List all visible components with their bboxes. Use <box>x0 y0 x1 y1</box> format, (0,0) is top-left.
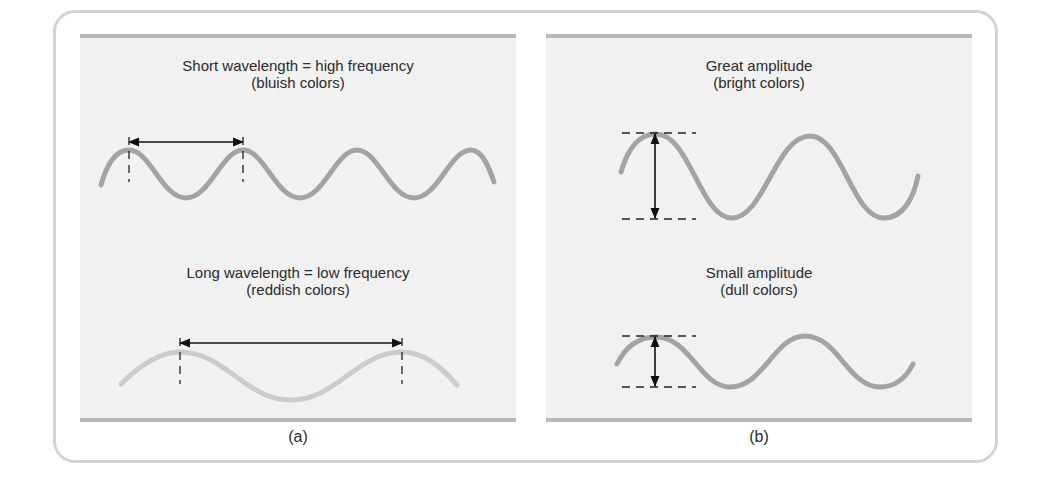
long-wavelength-wave <box>121 352 457 400</box>
great-amplitude-wave <box>621 134 918 218</box>
short-wavelength-wave <box>101 150 494 198</box>
small-amplitude-wave <box>617 336 913 387</box>
wave-diagram-art <box>0 0 1037 493</box>
